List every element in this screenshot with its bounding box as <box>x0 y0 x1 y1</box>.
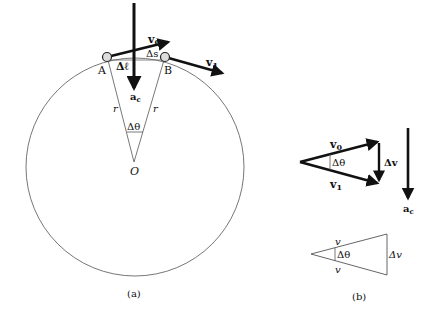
circular-motion-diagram: A B O v0 v1 ac Δℓ Δs r r Δθ (a) v0 v1 Δθ… <box>0 0 432 321</box>
label-v0: v0 <box>147 33 160 47</box>
label-A: A <box>97 64 107 77</box>
figure-b: v0 v1 Δθ Δv ac v v Δθ Δv (b) <box>300 128 414 302</box>
label-B: B <box>164 64 172 77</box>
ball-A <box>103 53 112 62</box>
caption-b: (b) <box>352 291 366 302</box>
label-delta-l: Δℓ <box>116 60 130 73</box>
label-delta-v-scalar: Δv <box>388 249 402 260</box>
caption-a: (a) <box>127 288 141 299</box>
ball-B <box>161 53 170 62</box>
label-ac-a: ac <box>130 91 141 104</box>
label-O: O <box>130 165 139 178</box>
label-ac-b: ac <box>403 203 414 216</box>
radius-OA <box>108 60 134 162</box>
label-v0-b: v0 <box>329 138 342 152</box>
label-delta-v-b: Δv <box>384 157 399 168</box>
radius-OB <box>134 60 164 162</box>
label-delta-theta-a: Δθ <box>127 121 140 132</box>
label-delta-theta-b: Δθ <box>332 157 345 168</box>
label-delta-s: Δs <box>146 48 158 59</box>
label-r-right: r <box>153 103 159 114</box>
label-v-bottom: v <box>335 264 341 275</box>
label-v1: v1 <box>205 56 218 70</box>
label-v1-b: v1 <box>329 178 342 192</box>
figure-a: A B O v0 v1 ac Δℓ Δs r r Δθ (a) <box>26 3 244 299</box>
label-delta-theta-scalar: Δθ <box>337 249 350 260</box>
label-v-top: v <box>335 236 341 247</box>
label-r-left: r <box>113 103 119 114</box>
